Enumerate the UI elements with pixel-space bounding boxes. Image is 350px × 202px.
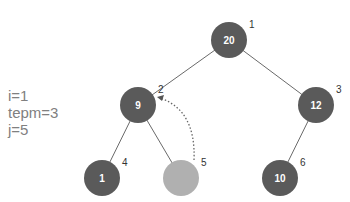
node-value: 10 — [274, 173, 286, 184]
tree-node: 14 — [84, 157, 128, 196]
node-value: 12 — [310, 100, 322, 111]
node-circle — [163, 160, 199, 196]
tree-node: 201 — [211, 19, 255, 58]
node-index: 5 — [201, 157, 207, 168]
node-value: 9 — [135, 100, 141, 111]
node-index: 2 — [158, 84, 164, 95]
tree-node: 106 — [262, 157, 306, 196]
node-index: 3 — [336, 84, 342, 95]
node-index: 1 — [249, 19, 255, 30]
tree-node: 92 — [120, 84, 164, 123]
node-value: 1 — [99, 173, 105, 184]
variable-tepm: tepm=3 — [8, 104, 58, 121]
node-index: 4 — [122, 157, 128, 168]
variable-j: j=5 — [8, 121, 58, 138]
variables-panel: i=1 tepm=3 j=5 — [8, 87, 58, 138]
tree-node: 123 — [298, 84, 342, 123]
node-value: 20 — [223, 35, 235, 46]
variable-i: i=1 — [8, 87, 58, 104]
node-index: 6 — [300, 157, 306, 168]
arrowhead-icon — [157, 95, 164, 101]
tree-node: 5 — [163, 157, 207, 196]
